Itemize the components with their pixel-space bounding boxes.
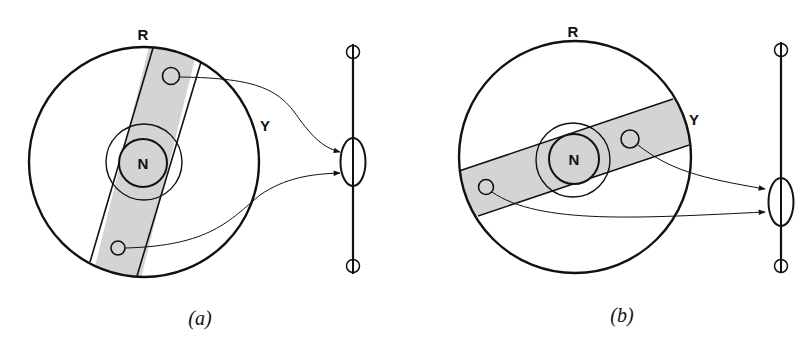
small-circle-bottom-a bbox=[111, 241, 125, 255]
label-n-a: N bbox=[138, 155, 149, 172]
label-r-a: R bbox=[138, 26, 149, 43]
small-circle-right-b bbox=[621, 130, 639, 148]
label-r-b: R bbox=[568, 23, 579, 40]
arrow-top-a bbox=[180, 77, 341, 152]
small-circle-left-b bbox=[479, 180, 494, 195]
small-circle-top-a bbox=[163, 68, 180, 85]
label-n-b: N bbox=[569, 151, 580, 168]
panel-a: N R Y (a) bbox=[29, 26, 366, 330]
panel-b: N R Y (b) bbox=[440, 23, 794, 327]
label-y-b: Y bbox=[689, 111, 699, 128]
caption-b: (b) bbox=[610, 304, 634, 327]
caption-a: (a) bbox=[188, 307, 212, 330]
diagram-canvas: N R Y (a) N R Y bbox=[0, 0, 809, 351]
label-y-a: Y bbox=[260, 117, 270, 134]
